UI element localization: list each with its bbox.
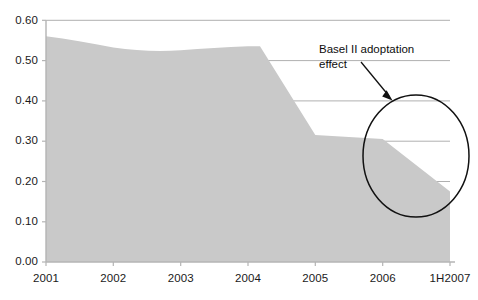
x-tick-label-2004: 2004 [218,272,278,284]
y-tick-label-0.60: 0.60 [6,14,38,26]
y-tick-label-0.50: 0.50 [6,54,38,66]
x-tick-label-1H2007: 1H2007 [420,272,478,284]
x-tick-label-2002: 2002 [83,272,143,284]
y-tick-label-0.30: 0.30 [6,134,38,146]
x-tick-label-2001: 2001 [16,272,76,284]
x-tick-label-2003: 2003 [151,272,211,284]
y-tick-label-0.10: 0.10 [6,215,38,227]
annotation-arrow [361,62,393,101]
area-chart: 0.60 0.50 0.40 0.30 0.20 0.10 0.00 2001 … [0,0,478,300]
area-series-fill [46,36,450,262]
annotation-label-line1: Basel II adoptation [319,42,414,57]
y-tick-label-0.00: 0.00 [6,255,38,267]
y-tick-label-0.40: 0.40 [6,94,38,106]
x-tick-label-2006: 2006 [353,272,413,284]
y-tick-label-0.20: 0.20 [6,175,38,187]
annotation-label-line2: effect [319,57,347,72]
x-tick-label-2005: 2005 [285,272,345,284]
